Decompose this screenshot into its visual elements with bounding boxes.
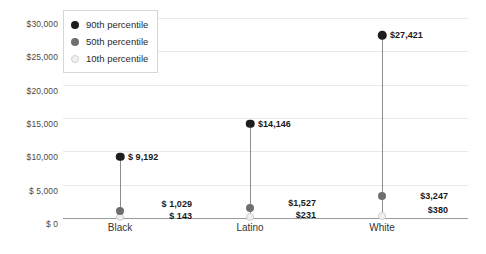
- x-label-white: White: [369, 222, 395, 233]
- legend-label-90th: 90th percentile: [86, 19, 148, 30]
- legend-marker-90th-icon: [71, 21, 79, 29]
- chart-legend: 90th percentile 50th percentile 10th per…: [63, 10, 158, 73]
- label-white-10th: $380: [390, 205, 448, 215]
- y-tick-5000: $ 5,000: [0, 180, 58, 198]
- label-latino-10th: $231: [258, 210, 316, 220]
- legend-item-50th[interactable]: 50th percentile: [71, 33, 148, 50]
- x-label-black: Black: [108, 222, 132, 233]
- point-latino-10th[interactable]: [246, 213, 254, 221]
- legend-marker-50th-icon: [71, 38, 79, 46]
- y-tick-25000: $25,000: [0, 46, 58, 64]
- label-black-50th: $ 1,029: [128, 199, 192, 209]
- label-black-90th: $ 9,192: [128, 152, 158, 162]
- point-white-50th[interactable]: [378, 192, 386, 200]
- label-white-90th: $27,421: [390, 30, 423, 40]
- gridline-20000: [63, 85, 468, 86]
- label-black-10th: $ 143: [128, 211, 192, 221]
- gridline-10000: [63, 151, 468, 152]
- label-latino-50th: $1,527: [258, 198, 316, 208]
- y-tick-20000: $20,000: [0, 80, 58, 98]
- point-latino-90th[interactable]: [246, 119, 255, 128]
- legend-item-90th[interactable]: 90th percentile: [71, 16, 148, 33]
- y-tick-15000: $15,000: [0, 113, 58, 131]
- label-latino-90th: $14,146: [258, 119, 291, 129]
- gridline-5000: [63, 185, 468, 186]
- point-white-90th[interactable]: [378, 31, 387, 40]
- x-label-latino: Latino: [236, 222, 263, 233]
- legend-marker-10th-icon: [71, 55, 79, 63]
- legend-label-10th: 10th percentile: [86, 53, 148, 64]
- legend-item-10th[interactable]: 10th percentile: [71, 50, 148, 67]
- label-white-50th: $3,247: [390, 191, 448, 201]
- y-tick-0: $ 0: [0, 213, 58, 231]
- point-white-10th[interactable]: [378, 212, 386, 220]
- legend-label-50th: 50th percentile: [86, 36, 148, 47]
- point-black-50th[interactable]: [116, 207, 124, 215]
- chart-container: $ 9,192 $ 1,029 $ 143 $14,146 $1,527 $23…: [0, 0, 486, 254]
- y-tick-10000: $10,000: [0, 146, 58, 164]
- point-latino-50th[interactable]: [246, 204, 254, 212]
- y-tick-30000: $30,000: [0, 13, 58, 31]
- stem-white: [382, 35, 383, 217]
- point-black-90th[interactable]: [116, 152, 125, 161]
